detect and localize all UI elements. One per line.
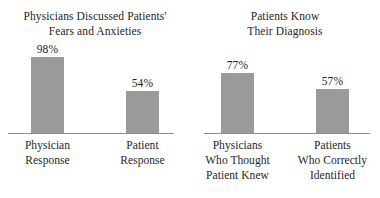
axis-baseline <box>8 133 174 134</box>
category-label: Physician Response <box>0 138 95 168</box>
category-label: Patients Who Correctly Identified <box>285 138 380 183</box>
chart-title: Patients Know Their Diagnosis <box>190 9 380 38</box>
plot-area: 98% 54% <box>0 40 190 134</box>
plot-area: 77% 57% <box>190 40 380 134</box>
bar-group: 77% 57% <box>190 40 380 134</box>
bar-chart-figure: Physicians Discussed Patients' Fears and… <box>0 0 380 198</box>
bar-value-label: 57% <box>322 75 344 88</box>
bar-group: 98% 54% <box>0 40 190 134</box>
bar <box>126 91 159 134</box>
bar <box>31 57 64 134</box>
chart-title: Physicians Discussed Patients' Fears and… <box>0 9 190 38</box>
chart-panel-patients-know-diagnosis: Patients Know Their Diagnosis 77% 57% Ph… <box>190 0 380 198</box>
category-label: Physicians Who Thought Patient Knew <box>190 138 285 183</box>
axis-baseline <box>204 133 370 134</box>
bar-slot: 54% <box>95 40 190 134</box>
bar-slot: 77% <box>190 40 285 134</box>
chart-panel-physicians-discussed: Physicians Discussed Patients' Fears and… <box>0 0 190 198</box>
category-label-group: Physicians Who Thought Patient Knew Pati… <box>190 138 380 183</box>
bar <box>316 89 349 134</box>
bar-value-label: 77% <box>227 59 249 72</box>
bar-value-label: 54% <box>132 77 154 90</box>
bar-slot: 57% <box>285 40 380 134</box>
category-label: Patient Response <box>95 138 190 168</box>
bar-slot: 98% <box>0 40 95 134</box>
category-label-group: Physician Response Patient Response <box>0 138 190 168</box>
bar <box>221 73 254 134</box>
bar-value-label: 98% <box>37 43 59 56</box>
